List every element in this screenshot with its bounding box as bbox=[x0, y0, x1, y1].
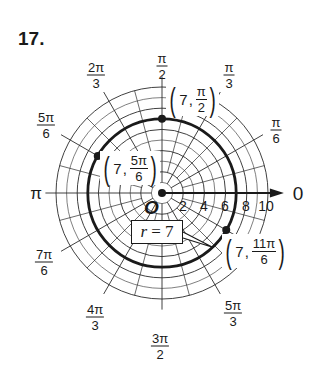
tick-label-10: 10 bbox=[258, 198, 274, 214]
equation-label-box: r = 7 bbox=[131, 220, 183, 244]
angle-label-7pi-over-6: 7π 6 bbox=[35, 248, 53, 277]
tick-label-6: 6 bbox=[221, 198, 229, 214]
point-label-7-11pi-over-6: ( 7, 11π 6 ) bbox=[222, 234, 289, 268]
origin-label: O bbox=[144, 197, 159, 219]
point-label-7-5pi-over-6: ( 7, 5π 6 ) bbox=[100, 151, 160, 185]
angle-label-4pi-over-3: 4π 3 bbox=[86, 303, 104, 332]
polar-graph-figure: 17. π 2 π 3 π 6 2π 3 5π 6 π 7π 6 4π 3 3π… bbox=[0, 0, 317, 374]
angle-label-5pi-over-6: 5π 6 bbox=[37, 111, 55, 140]
origin-dot bbox=[158, 189, 166, 197]
point-label-7-pi-over-2: ( 7, π 2 ) bbox=[166, 82, 219, 116]
angle-label-pi-over-2: π 2 bbox=[157, 52, 168, 81]
angle-label-pi: π bbox=[30, 184, 42, 204]
angle-label-3pi-over-2: 3π 2 bbox=[151, 332, 169, 361]
polar-axis-arrow bbox=[158, 189, 284, 198]
angle-label-2pi-over-3: 2π 3 bbox=[87, 61, 105, 90]
radial-line-195deg bbox=[60, 198, 142, 220]
arrowhead-icon bbox=[270, 189, 284, 198]
tick-label-2: 2 bbox=[179, 198, 187, 214]
tick-label-8: 8 bbox=[242, 198, 250, 214]
polar-axis-label: 0 bbox=[293, 183, 304, 205]
angle-label-pi-over-6: π 6 bbox=[271, 116, 282, 145]
radial-line-45deg bbox=[177, 118, 237, 178]
angle-label-pi-over-3: π 3 bbox=[224, 61, 235, 90]
tick-label-4: 4 bbox=[200, 198, 208, 214]
radial-line-15deg bbox=[182, 166, 264, 188]
angle-label-5pi-over-3: 5π 3 bbox=[224, 299, 242, 328]
point-marker-p1 bbox=[158, 115, 166, 123]
